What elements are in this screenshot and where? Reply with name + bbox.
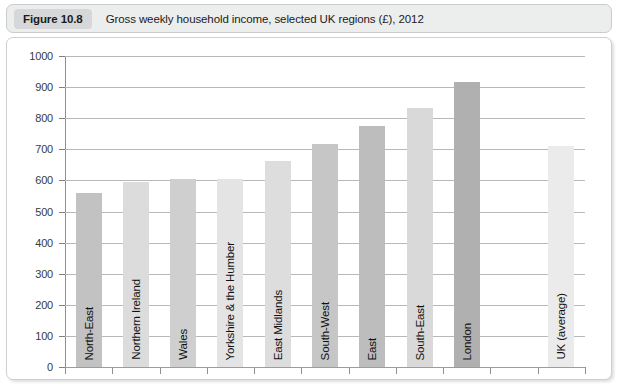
bar: South-East [407, 108, 433, 367]
y-axis-tick-label: 0 [7, 361, 53, 373]
y-axis-tick-label: 200 [7, 299, 53, 311]
bar: East Midlands [265, 161, 291, 367]
bar: Northern Ireland [123, 182, 149, 367]
chart-frame: North-EastNorthern IrelandWalesYorkshire… [6, 37, 612, 380]
bar: North-East [76, 193, 102, 367]
figure-caption: Gross weekly household income, selected … [106, 13, 424, 25]
y-axis-tick-label: 600 [7, 174, 53, 186]
y-axis-tick-label: 700 [7, 143, 53, 155]
x-axis-tick-mark [396, 368, 397, 374]
gridline [65, 367, 585, 368]
gridline [65, 56, 585, 57]
y-axis-tick-mark [59, 180, 65, 181]
bar: Yorkshire & the Humber [217, 179, 243, 367]
bar-category-label: South-East [414, 305, 426, 360]
x-axis-tick-mark [349, 368, 350, 374]
bar: East [359, 126, 385, 367]
x-axis-tick-mark [301, 368, 302, 374]
bar-category-label: Northern Ireland [130, 279, 142, 360]
y-axis-tick-label: 1000 [7, 50, 53, 62]
bar-category-label: Yorkshire & the Humber [224, 242, 236, 360]
bar-category-label: South-West [319, 302, 331, 360]
y-axis-tick-mark [59, 305, 65, 306]
bar-category-label: UK (average) [555, 293, 567, 360]
x-axis-tick-mark [207, 368, 208, 374]
bar: London [454, 82, 480, 367]
x-axis-tick-mark [254, 368, 255, 374]
figure-number-badge: Figure 10.8 [14, 9, 92, 29]
y-axis-tick-mark [59, 274, 65, 275]
y-axis-tick-label: 900 [7, 81, 53, 93]
bar: South-West [312, 144, 338, 367]
figure-card: Figure 10.8 Gross weekly household incom… [6, 4, 612, 380]
y-axis-tick-label: 800 [7, 112, 53, 124]
y-axis-tick-label: 400 [7, 237, 53, 249]
figure-title-bar: Figure 10.8 Gross weekly household incom… [6, 4, 612, 33]
y-axis-tick-mark [59, 212, 65, 213]
x-axis-tick-mark [65, 368, 66, 374]
gridline [65, 87, 585, 88]
bar-category-label: Wales [177, 329, 189, 360]
y-axis-tick-label: 500 [7, 206, 53, 218]
x-axis-tick-mark [585, 368, 586, 374]
y-axis-tick-mark [59, 243, 65, 244]
y-axis-tick-mark [59, 149, 65, 150]
y-axis-tick-mark [59, 118, 65, 119]
y-axis-tick-mark [59, 56, 65, 57]
bar-category-label: London [461, 323, 473, 360]
gridline [65, 118, 585, 119]
bar: Wales [170, 179, 196, 367]
bar-category-label: East Midlands [272, 290, 284, 360]
bar: UK (average) [548, 146, 574, 367]
x-axis-tick-mark [490, 368, 491, 374]
x-axis-tick-mark [160, 368, 161, 374]
bar-category-label: East [366, 338, 378, 360]
bar-category-label: North-East [83, 307, 95, 360]
y-axis-tick-label: 100 [7, 330, 53, 342]
x-axis-tick-mark [538, 368, 539, 374]
y-axis-tick-label: 300 [7, 268, 53, 280]
y-axis-tick-mark [59, 87, 65, 88]
x-axis-tick-mark [112, 368, 113, 374]
y-axis-tick-mark [59, 336, 65, 337]
x-axis-tick-mark [443, 368, 444, 374]
plot-area: North-EastNorthern IrelandWalesYorkshire… [65, 56, 585, 367]
